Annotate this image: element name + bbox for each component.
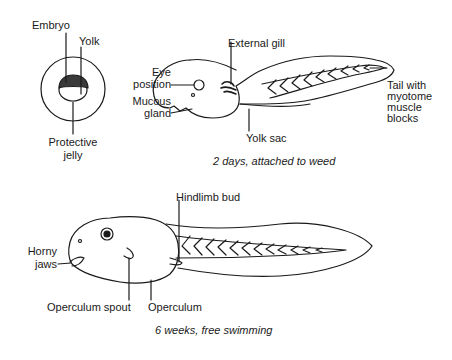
label-hindlimb-bud: Hindlimb bud <box>176 191 240 203</box>
label-embryo: Embryo <box>32 19 70 31</box>
label-horny-jaws-line1: Horny <box>0 245 57 257</box>
caption-6-weeks: 6 weeks, free swimming <box>155 324 272 336</box>
label-yolk: Yolk <box>79 35 99 47</box>
label-protective-jelly-line1: Protective <box>25 136 121 148</box>
tadpole-development-diagram: Embryo Yolk Protective jelly External gi… <box>0 0 452 360</box>
label-operculum-spout: Operculum spout <box>47 301 131 313</box>
label-yolk-sac: Yolk sac <box>246 132 287 144</box>
label-protective-jelly-line2: jelly <box>25 149 121 161</box>
embryo-shape <box>59 75 88 88</box>
label-eye-position-line2: position <box>100 78 171 90</box>
hatchling-drawing <box>153 42 394 131</box>
label-external-gill: External gill <box>228 37 285 49</box>
tadpole-drawing <box>58 200 372 300</box>
label-eye-position-line1: Eye <box>100 66 171 78</box>
label-mucous-gland-line1: Mucous <box>100 95 171 107</box>
label-horny-jaws-line2: jaws <box>0 258 57 270</box>
label-operculum: Operculum <box>148 301 202 313</box>
label-tail-line4: blocks <box>387 112 418 124</box>
egg-drawing <box>41 33 105 134</box>
caption-2-days: 2 days, attached to weed <box>213 155 335 167</box>
label-mucous-gland-line2: gland <box>100 107 171 119</box>
